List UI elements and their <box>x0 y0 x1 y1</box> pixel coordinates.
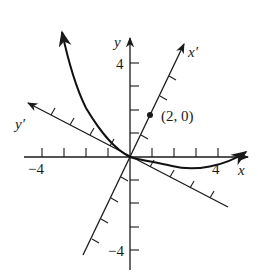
parabola-curve <box>62 32 246 168</box>
point-marker <box>147 112 153 118</box>
y-tick-label-neg4: −4 <box>108 243 124 259</box>
x-prime-ticks <box>92 76 176 243</box>
point-label: (2, 0) <box>161 108 194 125</box>
y-prime-label: y′ <box>13 116 26 132</box>
x-prime-axis <box>83 44 184 255</box>
x-prime-label: x′ <box>187 44 199 60</box>
rotated-axes-diagram: y x x′ y′ −4 4 4 −4 (2, 0) <box>0 0 258 272</box>
x-axis-label: x <box>237 162 245 178</box>
x-tick-label-neg4: −4 <box>28 161 44 177</box>
y-axis-label: y <box>112 34 121 50</box>
x-axis <box>24 148 248 157</box>
y-tick-label-4: 4 <box>116 56 124 72</box>
x-tick-label-4: 4 <box>212 161 220 177</box>
